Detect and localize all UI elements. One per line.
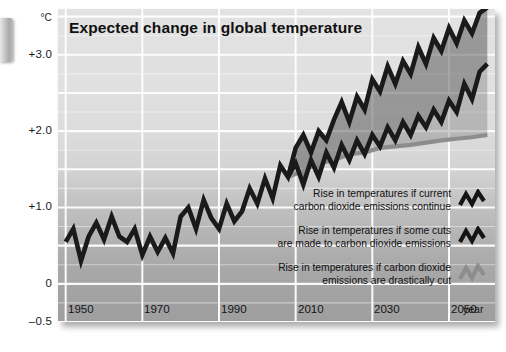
x-tick-label-2010: 2010	[298, 303, 324, 315]
y-axis-unit-label: °C	[40, 12, 52, 23]
x-tick-label-2030: 2030	[374, 303, 400, 315]
y-axis: °C +3.0 +2.0 +1.0 0 –0.5	[0, 0, 58, 352]
x-axis-unit-label: year	[463, 303, 483, 315]
series-lines	[58, 9, 495, 322]
chart-title: Expected change in global temperature	[69, 19, 362, 37]
x-axis: 1950 1970 1990 2010 2030 2050 year	[58, 303, 495, 322]
y-tick-label-1: +1.0	[28, 200, 52, 212]
x-tick-label-1990: 1990	[221, 303, 247, 315]
y-tick-label-2: +2.0	[28, 124, 52, 136]
x-tick-label-1970: 1970	[144, 303, 170, 315]
y-tick-label-3: +3.0	[28, 48, 52, 60]
x-tick-label-1950: 1950	[68, 303, 94, 315]
y-tick-label-0: 0	[45, 277, 52, 289]
y-tick-label-minus05: –0.5	[29, 315, 52, 327]
chart-plot-area: Expected change in global temperature	[58, 9, 495, 322]
